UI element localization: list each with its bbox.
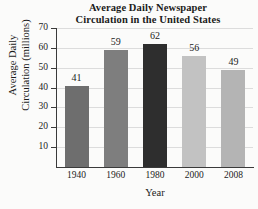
chart-title-line-1: Average Daily Newspaper: [42, 2, 254, 14]
y-axis-tick-label: 10: [22, 142, 48, 152]
y-axis-tick-label: 20: [22, 122, 48, 132]
chart-title-line-2: Circulation in the United States: [42, 14, 254, 26]
x-axis-tick-label: 1940: [57, 171, 97, 181]
bar-chart: Average Daily Newspaper Circulation in t…: [0, 0, 258, 209]
x-axis-line: [56, 167, 254, 168]
bar[interactable]: [65, 86, 89, 167]
x-axis-tick-label: 2008: [213, 171, 253, 181]
gridline: [57, 28, 253, 29]
bar-value-label: 41: [57, 73, 97, 83]
y-axis-tick-label: 30: [22, 102, 48, 112]
bar[interactable]: [221, 70, 245, 167]
y-axis-tick-label: 40: [22, 83, 48, 93]
x-axis-tick-label: 1980: [135, 171, 175, 181]
bar[interactable]: [143, 44, 167, 167]
y-axis-tick-label: 60: [22, 43, 48, 53]
bar-value-label: 56: [174, 43, 214, 53]
bar-value-label: 59: [96, 37, 136, 47]
x-axis-tick-label: 2000: [174, 171, 214, 181]
plot-area: 4159625649: [57, 28, 253, 167]
y-axis-line: [56, 28, 57, 168]
bar[interactable]: [104, 50, 128, 167]
bar-value-label: 49: [213, 57, 253, 67]
bar-value-label: 62: [135, 31, 175, 41]
x-axis-title: Year: [57, 187, 253, 198]
y-axis-tick-label: 70: [22, 23, 48, 33]
bar[interactable]: [182, 56, 206, 167]
chart-title: Average Daily Newspaper Circulation in t…: [42, 2, 254, 27]
x-axis-tick-label: 1960: [96, 171, 136, 181]
y-axis-title-line-1: Average Daily: [6, 0, 19, 136]
y-axis-tick-label: 50: [22, 63, 48, 73]
